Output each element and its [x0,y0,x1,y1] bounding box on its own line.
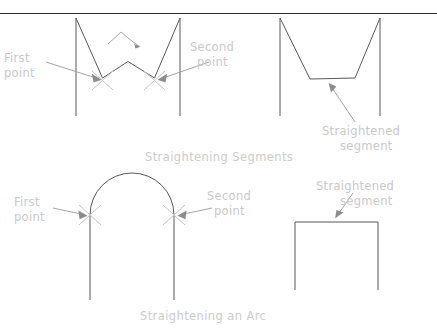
arch-before-shape [90,173,174,300]
second-point-label-line1: Second [190,40,234,54]
straightened-segment-leader-top [329,83,355,122]
first-point-label-bottom-line2: point [14,210,45,224]
peak-chevron-annotation [108,32,141,49]
first-point-label-line2: point [4,66,35,80]
straightened-segment-label-line1: Straightened [322,124,400,138]
straightening-diagram: First point Second point Straightened se… [0,0,437,334]
first-point-label-line1: First [4,51,30,65]
straightened-segment-label-bottom-line2: segment [340,194,393,208]
straightened-segment-label-bottom-line1: Straightened [316,179,394,193]
straightened-segment-label-line2: segment [340,139,393,153]
first-point-label-bottom-line1: First [14,195,40,209]
top-panel-caption: Straightening Segments [145,150,293,164]
trapezoid-after-shape [280,18,380,116]
trapezoid-polyline [280,18,380,79]
squared-open-rectangle [295,222,378,290]
arch-semicircle [90,173,174,215]
zigzag-before-shape [76,18,180,116]
second-point-label-bottom-line2: point [214,204,245,218]
second-point-leader-bottom [178,208,213,219]
zigzag-polyline [76,18,180,78]
squared-after-shape [295,222,378,290]
second-point-label-line2: point [197,55,228,69]
bottom-panel-caption: Straightening an Arc [140,309,266,323]
first-point-leader-bottom [53,208,88,219]
second-point-label-bottom-line1: Second [207,189,251,203]
